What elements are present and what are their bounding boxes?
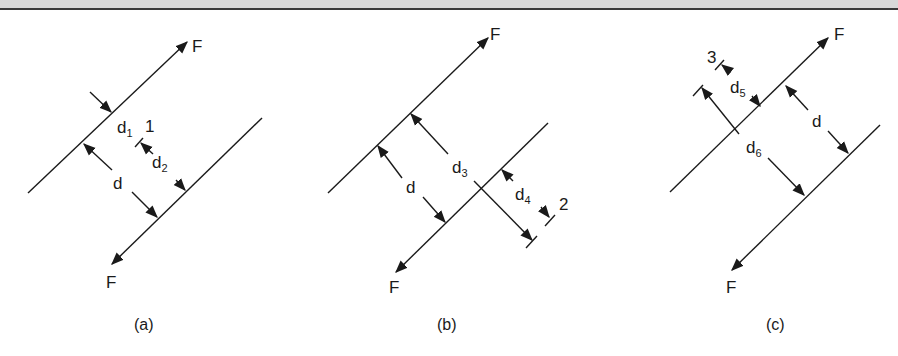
d2-label: d2 bbox=[152, 153, 168, 174]
d-label: d bbox=[406, 178, 415, 197]
d3-end-tick bbox=[526, 236, 537, 248]
d3-arrow-upper-icon bbox=[411, 114, 448, 154]
force-label-top: F bbox=[192, 37, 202, 56]
d6-start-tick bbox=[693, 85, 703, 96]
caption-a: (a) bbox=[134, 316, 154, 333]
d-label: d bbox=[113, 174, 122, 193]
d4-arrow-upper-icon bbox=[502, 170, 513, 181]
d4-arrow-lower-icon bbox=[541, 207, 549, 217]
force-label-top: F bbox=[490, 25, 500, 44]
d-arrow-upper-icon bbox=[378, 146, 402, 178]
force-label-top: F bbox=[834, 25, 844, 44]
panel-a: F F d1 1 d2 d (a) bbox=[28, 37, 262, 333]
d-arrow-lower-icon bbox=[423, 197, 445, 222]
caption-c: (c) bbox=[766, 316, 785, 333]
reference-point-2-tick bbox=[545, 215, 555, 226]
d3-label: d3 bbox=[452, 158, 468, 179]
d-arrow-lower-icon bbox=[828, 131, 848, 153]
d-arrow-upper-icon bbox=[786, 86, 808, 110]
d-arrow-lower-icon bbox=[132, 192, 157, 217]
force-line-upper-arrow-icon bbox=[670, 38, 828, 192]
d2-arrow-lower-icon bbox=[176, 180, 185, 190]
d5-arrow-lower-icon bbox=[752, 96, 760, 106]
d-label: d bbox=[812, 112, 821, 131]
reference-label-2: 2 bbox=[559, 195, 568, 214]
panel-b: F F d3 d d4 2 (b) bbox=[328, 25, 568, 333]
reference-label-1: 1 bbox=[145, 117, 154, 136]
force-line-lower-arrow-icon bbox=[112, 118, 262, 264]
d5-arrow-upper-icon bbox=[722, 65, 731, 72]
d5-label: d5 bbox=[730, 78, 746, 99]
d-arrow-upper-icon bbox=[84, 144, 112, 170]
reference-label-3: 3 bbox=[707, 48, 716, 67]
d1-arrow-icon bbox=[90, 92, 111, 112]
d1-label: d1 bbox=[117, 118, 133, 139]
force-label-bottom: F bbox=[106, 273, 116, 292]
d6-arrow-lower-icon bbox=[768, 158, 804, 195]
caption-b: (b) bbox=[437, 316, 457, 333]
panel-c: F F 3 d5 d d6 (c) bbox=[670, 25, 880, 333]
d6-label: d6 bbox=[746, 138, 762, 159]
force-label-bottom: F bbox=[726, 278, 736, 297]
force-label-bottom: F bbox=[389, 278, 399, 297]
reference-point-1-tick bbox=[135, 138, 143, 147]
d4-label: d4 bbox=[515, 185, 531, 206]
couple-diagram: F F d1 1 d2 d (a) F F d3 d d4 2 (b) bbox=[0, 0, 898, 356]
